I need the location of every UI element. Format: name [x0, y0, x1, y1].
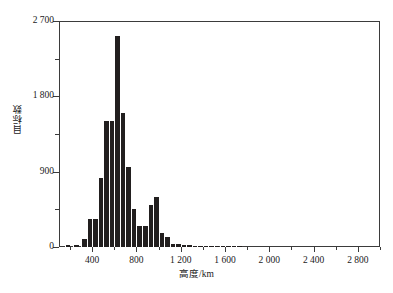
- x-axis-minor-tick: [203, 247, 204, 250]
- x-axis-tick: [225, 247, 226, 252]
- y-axis-tick-label: 1 800: [33, 91, 54, 101]
- y-axis-minor-tick: [55, 59, 59, 60]
- y-axis-tick-label: 2 700: [33, 16, 54, 26]
- x-axis-tick: [358, 247, 359, 252]
- plot-area: [59, 21, 380, 247]
- x-axis-tick: [314, 247, 315, 252]
- x-axis-minor-tick: [380, 247, 381, 250]
- x-axis-tick-label: 2 800: [347, 255, 368, 265]
- y-axis-tick-label: 900: [40, 167, 54, 177]
- x-axis-tick: [181, 247, 182, 252]
- y-axis-title: 目标数: [13, 104, 24, 134]
- x-axis-tick-label: 400: [85, 255, 99, 265]
- x-axis-tick-label: 1 600: [214, 255, 235, 265]
- x-axis-minor-tick: [247, 247, 248, 250]
- y-axis-minor-tick: [55, 134, 59, 135]
- x-axis-tick-label: 2 400: [303, 255, 324, 265]
- x-axis-tick: [269, 247, 270, 252]
- x-axis-minor-tick: [291, 247, 292, 250]
- x-axis-title: 高度/km: [0, 269, 393, 280]
- histogram-figure: 09001 8002 700 4008001 2001 6002 0002 40…: [0, 0, 393, 293]
- x-axis-tick-label: 1 200: [170, 255, 191, 265]
- x-axis-tick-label: 800: [129, 255, 143, 265]
- x-axis-tick-label: 2 000: [259, 255, 280, 265]
- x-axis-minor-tick: [159, 247, 160, 250]
- y-axis-tick-label: 0: [49, 242, 54, 252]
- x-axis-minor-tick: [70, 247, 71, 250]
- y-axis-minor-tick: [55, 209, 59, 210]
- x-axis-minor-tick: [114, 247, 115, 250]
- x-axis-minor-tick: [336, 247, 337, 250]
- x-axis-tick: [136, 247, 137, 252]
- x-axis-tick: [92, 247, 93, 252]
